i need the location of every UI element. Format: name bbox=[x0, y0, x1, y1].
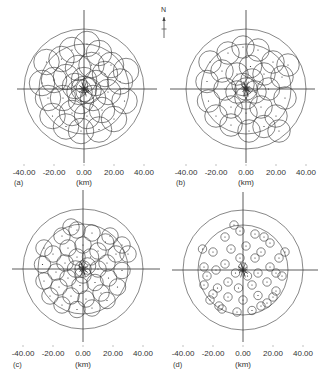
station-dot bbox=[67, 247, 68, 248]
station-dot bbox=[58, 286, 59, 287]
station-dot bbox=[239, 257, 240, 258]
station-dot bbox=[257, 295, 258, 296]
station-dot bbox=[106, 300, 107, 301]
station-dot bbox=[113, 118, 114, 119]
station-dot bbox=[52, 115, 53, 116]
tick-label: 20.00 bbox=[266, 168, 286, 177]
station-dot bbox=[218, 305, 219, 306]
station-dot bbox=[212, 251, 213, 252]
station-dot bbox=[76, 229, 77, 230]
station-dot bbox=[221, 70, 222, 71]
station-dot bbox=[233, 224, 234, 225]
station-dot bbox=[260, 251, 261, 252]
station-dot bbox=[43, 247, 44, 248]
panel-label-b: (b) bbox=[176, 178, 185, 187]
station-dot bbox=[206, 275, 207, 276]
station-dot bbox=[61, 235, 62, 236]
station-dot bbox=[46, 61, 47, 62]
station-dot bbox=[275, 272, 276, 273]
station-dot bbox=[251, 284, 252, 285]
station-dot bbox=[245, 245, 246, 246]
station-dot bbox=[124, 100, 125, 101]
units-label: (km) bbox=[238, 178, 254, 187]
units-label: (km) bbox=[235, 360, 251, 369]
station-dot bbox=[41, 82, 42, 83]
tick-label: 0.00 bbox=[235, 349, 251, 358]
station-dot bbox=[251, 310, 252, 311]
north-arrowhead-icon bbox=[162, 17, 165, 21]
tick-label: -40.00 bbox=[13, 168, 36, 177]
station-dot bbox=[254, 257, 255, 258]
station-dot bbox=[97, 250, 98, 251]
tick-label: -20.00 bbox=[42, 349, 65, 358]
station-dot bbox=[61, 58, 62, 59]
station-dot bbox=[281, 76, 282, 77]
station-dot bbox=[275, 115, 276, 116]
station-dot bbox=[86, 115, 87, 116]
station-dot bbox=[263, 126, 264, 127]
station-dot bbox=[203, 284, 204, 285]
tick-label: 40.00 bbox=[296, 168, 316, 177]
station-dot bbox=[125, 70, 126, 71]
station-dot bbox=[109, 235, 110, 236]
tick-label: 20.00 bbox=[104, 168, 124, 177]
tick-label: 40.00 bbox=[133, 349, 153, 358]
tick-label: -40.00 bbox=[172, 349, 195, 358]
station-dot bbox=[239, 230, 240, 231]
station-dot bbox=[76, 256, 77, 257]
station-dot bbox=[263, 73, 264, 74]
station-dot bbox=[227, 52, 228, 53]
station-dot bbox=[250, 66, 251, 67]
station-dot bbox=[203, 266, 204, 267]
station-dot bbox=[206, 81, 207, 82]
tick-label: -20.00 bbox=[205, 168, 228, 177]
panel-label-a: (a) bbox=[14, 178, 23, 187]
panel-label-c: (c) bbox=[13, 360, 22, 369]
station-dot bbox=[238, 287, 239, 288]
station-dot bbox=[248, 130, 249, 131]
tick-label: 40.00 bbox=[134, 168, 154, 177]
station-dot bbox=[272, 296, 273, 297]
station-dot bbox=[254, 91, 255, 92]
station-dot bbox=[242, 84, 243, 85]
station-dot bbox=[217, 287, 218, 288]
tick-label: 20.00 bbox=[263, 349, 283, 358]
station-dot bbox=[287, 64, 288, 65]
station-dot bbox=[230, 248, 231, 249]
north-label: N bbox=[161, 6, 166, 13]
station-dot bbox=[230, 106, 231, 107]
station-dot bbox=[269, 242, 270, 243]
station-dot bbox=[107, 91, 108, 92]
station-dot bbox=[260, 106, 261, 107]
station-dot bbox=[278, 257, 279, 258]
tick-label: 0.00 bbox=[238, 168, 254, 177]
station-dot bbox=[235, 272, 236, 273]
station-dot bbox=[278, 130, 279, 131]
tick-label: -40.00 bbox=[175, 168, 198, 177]
station-dot bbox=[79, 285, 80, 286]
station-dot bbox=[91, 64, 92, 65]
station-dot bbox=[55, 271, 56, 272]
station-dot bbox=[43, 280, 44, 281]
station-dot bbox=[209, 299, 210, 300]
station-dot bbox=[62, 97, 63, 98]
station-dot bbox=[266, 302, 267, 303]
station-dot bbox=[236, 311, 237, 312]
station-dot bbox=[284, 251, 285, 252]
station-dot bbox=[208, 100, 209, 101]
tick-label: 0.00 bbox=[76, 168, 92, 177]
station-dot bbox=[224, 236, 225, 237]
station-dot bbox=[281, 275, 282, 276]
station-dot bbox=[71, 49, 72, 50]
station-dot bbox=[79, 91, 80, 92]
station-dot bbox=[67, 277, 68, 278]
tick-label: -20.00 bbox=[202, 349, 225, 358]
station-dot bbox=[230, 124, 231, 125]
station-dot bbox=[209, 61, 210, 62]
station-dot bbox=[98, 52, 99, 53]
station-dot bbox=[215, 115, 216, 116]
station-dot bbox=[80, 130, 81, 131]
tick-label: -40.00 bbox=[12, 349, 35, 358]
station-dot bbox=[91, 232, 92, 233]
tick-label: -20.00 bbox=[43, 168, 66, 177]
